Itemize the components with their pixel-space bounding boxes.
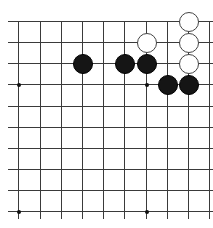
grid-line-horizontal [8,190,213,191]
white-stone [179,54,199,74]
black-stone [137,54,157,74]
grid-line-horizontal [8,127,213,128]
black-stone [73,54,93,74]
grid-line-vertical [40,21,41,219]
go-board [0,0,213,228]
white-stone [179,12,199,32]
white-stone [179,33,199,53]
grid-line-vertical [209,21,210,219]
white-stone [137,33,157,53]
star-point [17,83,21,87]
grid-line-horizontal [8,106,213,107]
grid-line-vertical [18,21,19,219]
grid-line-vertical [124,21,125,219]
grid-line-vertical [103,21,104,219]
grid-line-vertical [82,21,83,219]
grid-line-horizontal [8,169,213,170]
grid-line-horizontal [8,211,213,212]
black-stone [179,75,199,95]
grid-line-vertical [167,21,168,219]
star-point [17,210,21,214]
black-stone [115,54,135,74]
grid-line-horizontal [8,148,213,149]
star-point [145,83,149,87]
star-point [145,210,149,214]
black-stone [158,75,178,95]
grid-line-vertical [61,21,62,219]
